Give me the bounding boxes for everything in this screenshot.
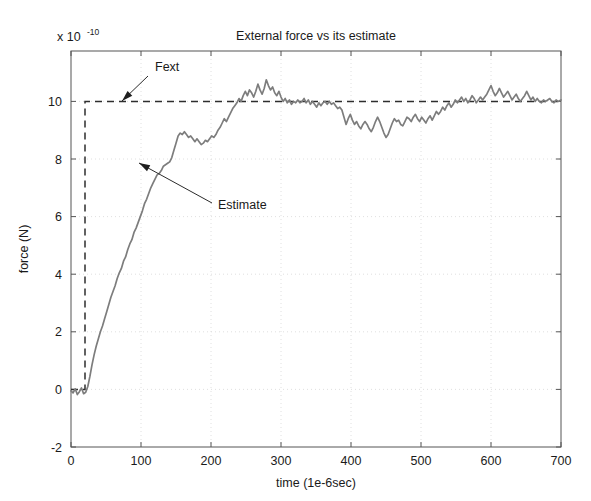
x-tick-label: 0 (68, 454, 75, 468)
series-line-fext (71, 101, 561, 389)
y-axis-multiplier-exponent: -10 (87, 27, 100, 37)
y-tick-label: 0 (55, 383, 62, 397)
y-tick-label: 6 (55, 210, 62, 224)
x-tick-label: 600 (481, 454, 502, 468)
annotation-leader-line (139, 163, 212, 203)
chart-figure: FextEstimate 0100200300400500600700-2024… (0, 0, 591, 501)
y-tick-label: 10 (48, 95, 62, 109)
chart-title: External force vs its estimate (236, 29, 396, 43)
x-tick-label: 100 (131, 454, 152, 468)
y-tick-label: 4 (55, 268, 62, 282)
x-tick-label: 700 (551, 454, 572, 468)
annotation-label: Fext (155, 60, 180, 74)
x-tick-label: 400 (341, 454, 362, 468)
y-tick-label: -2 (51, 441, 62, 455)
x-tick-label: 200 (201, 454, 222, 468)
tick-marks (71, 51, 561, 447)
series-line-estimate (71, 80, 561, 395)
y-axis-label: force (N) (17, 225, 31, 274)
y-axis-multiplier: x 10 (57, 30, 81, 44)
y-tick-label: 2 (55, 325, 62, 339)
gridlines (71, 51, 561, 447)
y-tick-label: 8 (55, 153, 62, 167)
plot-canvas: FextEstimate 0100200300400500600700-2024… (0, 0, 591, 501)
x-axis-label: time (1e-6sec) (276, 476, 356, 490)
data-series-group (71, 80, 561, 395)
annotation-label: Estimate (218, 198, 267, 212)
x-tick-label: 300 (271, 454, 292, 468)
axis-labels-group: 0100200300400500600700-20246810External … (17, 27, 571, 490)
plot-frame (71, 51, 561, 447)
annotations-group: FextEstimate (122, 60, 267, 212)
x-tick-label: 500 (411, 454, 432, 468)
